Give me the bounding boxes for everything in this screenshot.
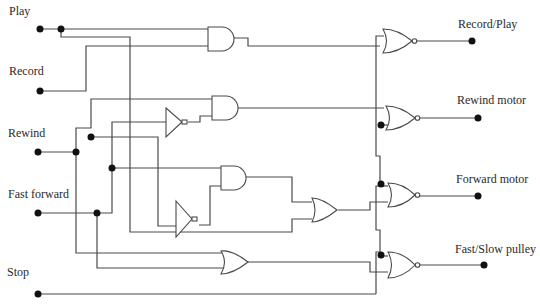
logic-circuit-diagram [0,0,540,308]
input-label-stop: Stop [7,265,29,280]
nor-gate-2-bubble [415,116,420,121]
wire-fastforward-to-or2 [97,213,225,268]
wire-or2-to-nor4 [246,262,388,272]
wire-rewind [38,99,212,152]
wire-rewind-to-or2 [76,152,225,253]
not-gate-1 [166,108,182,137]
output-label-rewind-motor: Rewind motor [457,93,526,108]
or-gate-2 [221,251,248,274]
terminal-stop [35,291,42,298]
terminal-record [37,88,44,95]
terminal-record-play [469,38,476,45]
junction-rewind-2 [88,134,95,141]
nor-gate-3 [388,183,415,207]
and-gate-3 [221,166,246,190]
terminal-fast-slow-pulley [481,262,488,269]
junction-bus-nor4 [378,252,385,259]
nor-gate-1 [383,29,412,53]
input-label-record: Record [9,64,44,79]
input-label-fast-forward: Fast forward [8,187,69,202]
nor-gate-4 [388,252,415,278]
output-label-forward-motor: Forward motor [456,172,528,187]
output-label-record-play: Record/Play [458,17,517,32]
wire-not1-to-and2 [188,116,212,122]
junction-rewind-1 [73,149,80,156]
terminal-rewind [35,149,42,156]
junction-fastforward-2 [109,165,116,172]
terminal-play [37,26,44,33]
wire-or1-to-nor3 [338,202,388,210]
and-gate-2 [212,96,238,120]
output-label-fast-slow-pulley: Fast/Slow pulley [455,242,536,257]
wire-and3-to-or1 [246,177,312,202]
and-gate-1 [208,27,234,51]
not-gate-2-bubble [192,217,197,221]
input-label-play: Play [9,4,30,19]
junction-play [58,26,65,33]
wire-play-to-or1 [270,219,312,232]
wire-record-to-and1 [40,46,208,91]
or-gate-1 [312,198,337,222]
terminal-forward-motor [475,193,482,200]
not-gate-1-bubble [182,120,187,124]
junction-fastforward-1 [94,210,101,217]
junction-bus-nor2 [378,122,385,129]
terminals [35,26,488,298]
junction-bus-nor3 [378,181,385,188]
gates [166,27,420,278]
nor-gate-4-bubble [415,263,420,268]
nor-gate-1-bubble [412,39,417,44]
input-label-rewind: Rewind [8,126,45,141]
terminal-fastforward [35,210,42,217]
wires [38,29,484,294]
wire-not2-to-and3 [199,186,221,225]
nor-gate-2 [386,106,415,130]
wire-and1-to-nor1 [234,38,380,46]
nor-gate-3-bubble [415,193,420,198]
terminal-rewind-motor [475,115,482,122]
